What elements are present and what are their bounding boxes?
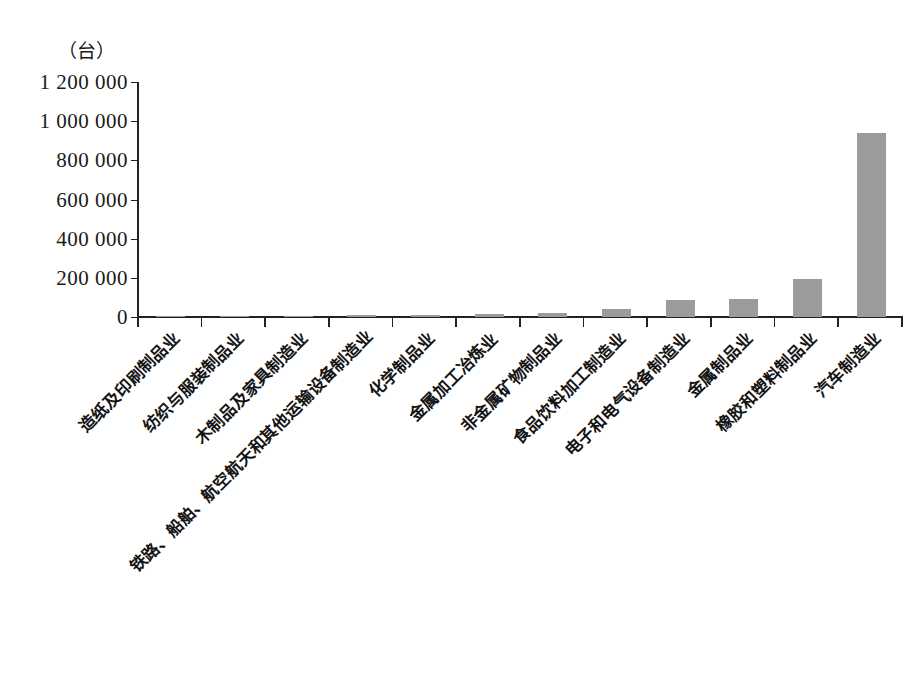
bar (475, 314, 504, 317)
x-tick-mark (901, 318, 903, 327)
y-axis-unit-label: （台） (58, 36, 115, 63)
bars-layer (139, 82, 903, 317)
plot-area: 1 200 0001 000 000800 000600 000400 0002… (137, 82, 903, 317)
x-tick-mark (328, 318, 330, 327)
y-tick-label: 600 000 (56, 187, 128, 212)
x-tick-mark (710, 318, 712, 327)
x-tick-mark (137, 318, 139, 327)
x-category-label: 汽车制造业 (809, 326, 885, 402)
x-tick-mark (646, 318, 648, 327)
y-tick-mark (131, 82, 138, 83)
x-tick-mark (392, 318, 394, 327)
y-tick-mark (131, 200, 138, 201)
y-tick-mark (131, 278, 138, 279)
bar (538, 313, 567, 317)
x-tick-mark (837, 318, 839, 327)
bar (284, 316, 313, 317)
x-tick-mark (201, 318, 203, 327)
x-tick-mark (455, 318, 457, 327)
bar (602, 309, 631, 317)
bar (729, 299, 758, 317)
bar (156, 316, 185, 317)
bar (220, 316, 249, 317)
bar (347, 315, 376, 317)
y-tick-mark (131, 121, 138, 122)
bar (793, 279, 822, 317)
x-category-label: 食品饮料加工制造业 (507, 326, 630, 449)
y-tick-label: 1 000 000 (40, 109, 129, 134)
bar (666, 300, 695, 317)
y-tick-mark (131, 239, 138, 240)
x-tick-mark (519, 318, 521, 327)
x-category-label: 木制品及家具制造业 (189, 326, 312, 449)
y-tick-label: 400 000 (56, 226, 128, 251)
y-tick-label: 0 (117, 305, 128, 330)
bar (411, 315, 440, 317)
y-tick-label: 200 000 (56, 265, 128, 290)
y-tick-label: 800 000 (56, 148, 128, 173)
y-tick-label: 1 200 000 (40, 70, 129, 95)
bar (857, 133, 886, 317)
x-tick-mark (264, 318, 266, 327)
x-tick-mark (583, 318, 585, 327)
chart-figure: （台） 1 200 0001 000 000800 000600 000400 … (0, 0, 917, 682)
y-tick-mark (131, 160, 138, 161)
x-tick-mark (774, 318, 776, 327)
